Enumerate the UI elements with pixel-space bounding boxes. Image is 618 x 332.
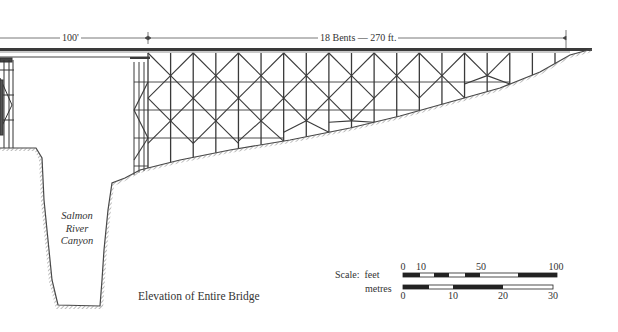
main-span-dimension: 100'	[60, 32, 81, 43]
feet-tick-0: 0	[401, 261, 406, 272]
bridge-deck	[0, 48, 592, 57]
metres-tick-20: 20	[498, 290, 508, 301]
canyon-label-line-1: Salmon	[52, 210, 102, 223]
scale-bar-metres	[403, 285, 553, 289]
figure-caption: Elevation of Entire Bridge	[138, 290, 260, 302]
trestle-dimension: 18 Bents — 270 ft.	[318, 32, 398, 43]
metres-tick-30: 30	[548, 290, 558, 301]
canyon-label-line-3: Canyon	[52, 235, 102, 248]
ground-profile	[0, 49, 592, 309]
bridge-elevation-drawing: 100' 18 Bents — 270 ft. Salmon River Can…	[0, 0, 618, 332]
scale-label: Scale: feet	[335, 269, 379, 280]
metres-tick-0: 0	[401, 290, 406, 301]
dimension-lines	[0, 30, 566, 48]
feet-tick-100: 100	[549, 261, 564, 272]
scale-bar-feet	[403, 273, 557, 277]
scale-title: Scale:	[335, 269, 359, 280]
left-tower	[0, 58, 14, 148]
feet-tick-10: 10	[416, 261, 426, 272]
metres-tick-10: 10	[448, 290, 458, 301]
bridge-elevation-svg	[0, 0, 618, 332]
canyon-label: Salmon River Canyon	[52, 210, 102, 248]
canyon-label-line-2: River	[52, 223, 102, 236]
feet-tick-50: 50	[476, 261, 486, 272]
scale-feet-label: feet	[364, 269, 379, 280]
scale-metres-label: metres	[365, 283, 392, 294]
